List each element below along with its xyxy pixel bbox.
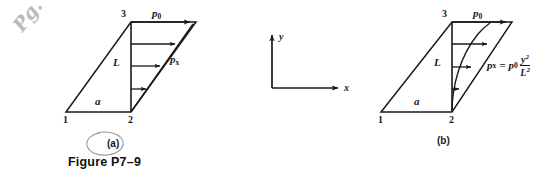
coordinate-axes [272,35,338,88]
equation-numerator-exponent: 2 [526,53,530,61]
equation-denominator: L2 [519,66,531,77]
panel-a-pressure-envelope [131,24,193,112]
panel-b-node-label-3: 3 [442,9,447,19]
equation-fraction: y2 L2 [519,54,531,77]
panel-a-peak-pressure-label: p0 [152,8,161,20]
panel-b-node-label-1: 1 [378,115,383,125]
equation-numerator: y2 [520,54,530,66]
panel-a-pressure-label: px [170,54,179,66]
panel-a-node-label-1: 1 [63,115,68,125]
panel-a-peak-pressure-subscript: 0 [158,12,162,21]
y-axis-label: y [279,32,283,42]
panel-b-node-label-2: 2 [449,115,454,125]
figure-caption: Figure P7–9 [68,155,141,169]
panel-b-pressure-equation: px = p0 y2 L2 [487,54,531,77]
panel-a-side-label-a: a [95,96,101,107]
panel-a-node-label-3: 3 [121,9,126,19]
equation-equals-sign: = [499,60,505,71]
panel-b-side-label-a: a [414,96,420,107]
equation-denominator-exponent: 2 [526,66,530,74]
panel-a-sublabel: (a) [107,138,119,149]
equation-rhs-coefficient-subscript: 0 [514,62,518,70]
equation-lhs-subscript: x [493,62,497,70]
panel-a-geometry [66,22,196,112]
figure-container: Pg. 409 [0,0,558,175]
panel-a-node-label-2: 2 [128,115,133,125]
panel-b-height-label-L: L [434,57,441,68]
figure-drawing [0,0,558,175]
panel-a-pressure-arrows [131,22,190,89]
panel-a-pressure-subscript: x [176,58,180,67]
panel-b-peak-pressure-subscript: 0 [479,12,483,21]
panel-b-peak-pressure-label: p0 [473,8,482,20]
x-axis-label: x [344,83,349,93]
panel-a-height-label-L: L [113,57,120,68]
panel-b-sublabel: (b) [437,135,450,146]
